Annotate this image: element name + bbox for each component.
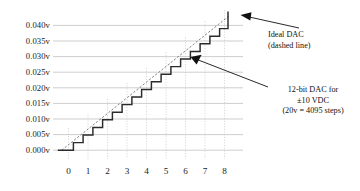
dac-transfer-chart: 0.040v 0.035v 0.030v 0.025v 0.020v 0.015… xyxy=(0,0,360,191)
x-tick-label-5: 5 xyxy=(159,166,173,176)
x-tick-label-7: 7 xyxy=(198,166,212,176)
x-tick-label-3: 3 xyxy=(120,166,134,176)
annotation-ideal-dac-line1: Ideal DAC xyxy=(268,30,311,41)
annotation-ideal-dac: Ideal DAC (dashed line) xyxy=(268,30,311,51)
annotation-dac-spec-line1: 12-bit DAC for xyxy=(270,85,356,96)
x-tick-label-2: 2 xyxy=(101,166,115,176)
annotation-ideal-dac-line2: (dashed line) xyxy=(268,41,311,52)
x-tick-label-0: 0 xyxy=(62,166,76,176)
annotation-dac-spec: 12-bit DAC for ±10 VDC (20v = 4095 steps… xyxy=(270,85,356,117)
x-tick-label-8: 8 xyxy=(218,166,232,176)
x-tick-label-6: 6 xyxy=(179,166,193,176)
x-tick-label-1: 1 xyxy=(81,166,95,176)
annotation-dac-spec-line3: (20v = 4095 steps) xyxy=(270,106,356,117)
x-tick-label-4: 4 xyxy=(140,166,154,176)
annotation-dac-spec-line2: ±10 VDC xyxy=(270,96,356,107)
